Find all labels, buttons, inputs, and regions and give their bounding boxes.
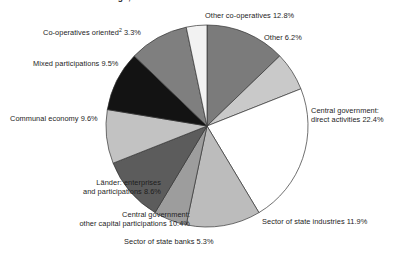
slice-label-laender-enterprises-and-participations: Länder: enterprises and participations 8… <box>28 178 161 196</box>
slice-label-other: Other 6.2% <box>264 33 302 42</box>
slice-label-co-operatives-oriented: Co-operatives oriented2 3.3% <box>43 28 141 37</box>
label-line-2: and participations 8.6% <box>83 187 161 196</box>
label-value: 3.3% <box>122 28 141 37</box>
slice-label-communal-economy: Communal economy 9.6% <box>10 114 98 123</box>
slice-label-central-government-direct-activities: Central government: direct activities 22… <box>311 106 384 124</box>
label-line-2: other capital participations 10.4% <box>79 219 190 228</box>
label-line-1: Central government: <box>122 210 190 219</box>
slice-label-mixed-participations: Mixed participations 9.5% <box>33 59 118 68</box>
label-line-2: direct activities 22.4% <box>311 115 384 124</box>
slice-label-other-co-operatives: Other co-operatives 12.8% <box>205 11 294 20</box>
label-line-1: Central government: <box>311 106 379 115</box>
label-line-1: Länder: enterprises <box>96 178 161 187</box>
slice-label-sector-of-state-industries: Sector of state industries 11.9% <box>262 217 367 226</box>
slice-label-sector-of-state-banks: Sector of state banks 5.3% <box>124 237 214 246</box>
pie-chart-figure: ATS/EUR billion of borrowings; share of … <box>0 0 402 255</box>
label-text: Co-operatives oriented <box>43 28 119 37</box>
pie-slices-group <box>106 25 308 227</box>
slice-label-central-government-other-capital-participations: Central government: other capital partic… <box>44 210 190 228</box>
